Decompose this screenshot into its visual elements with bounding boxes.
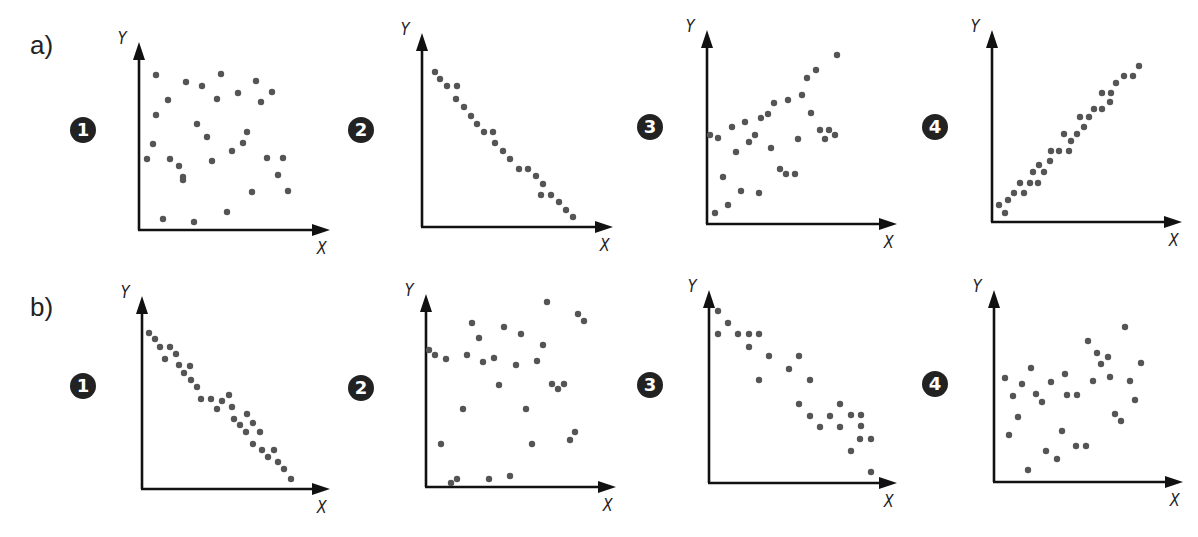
data-point	[1086, 114, 1092, 120]
data-point	[146, 330, 152, 336]
data-point	[796, 401, 802, 407]
data-point	[501, 324, 507, 330]
data-point	[231, 416, 237, 422]
data-point	[544, 299, 550, 305]
data-point	[525, 166, 531, 172]
data-point	[229, 148, 235, 154]
data-point	[817, 424, 823, 430]
scatter-plot-b3	[703, 290, 897, 489]
y-axis-arrow-icon	[420, 294, 432, 312]
data-point	[264, 155, 270, 161]
data-point	[837, 401, 843, 407]
data-point	[752, 132, 758, 138]
data-point	[756, 377, 762, 383]
data-point	[777, 166, 783, 172]
data-point	[1005, 197, 1011, 203]
data-point	[1059, 428, 1065, 434]
x-axis-arrow-icon	[879, 477, 897, 489]
data-point	[1083, 443, 1089, 449]
data-point	[834, 52, 840, 58]
data-point	[265, 454, 271, 460]
data-point	[1105, 354, 1111, 360]
data-point	[1021, 190, 1027, 196]
data-point	[725, 202, 731, 208]
data-point	[235, 90, 241, 96]
data-point	[837, 424, 843, 430]
y-axis-arrow-icon	[701, 30, 713, 48]
data-point	[253, 78, 259, 84]
data-point	[464, 352, 470, 358]
x-axis-arrow-icon	[1165, 476, 1183, 488]
data-point	[1074, 131, 1080, 137]
data-point	[1091, 106, 1097, 112]
y-axis-arrow-icon	[986, 30, 998, 48]
data-point	[469, 320, 475, 326]
data-point	[1090, 378, 1096, 384]
data-point	[275, 459, 281, 465]
data-point	[817, 127, 823, 133]
data-point	[715, 308, 721, 314]
data-point	[868, 436, 874, 442]
scatter-plot-b4	[988, 290, 1183, 488]
data-point	[176, 362, 182, 368]
scatter-plot-canvas	[0, 0, 1198, 537]
data-point	[1113, 80, 1119, 86]
data-point	[258, 99, 264, 105]
data-point	[160, 216, 166, 222]
y-axis-arrow-icon	[133, 42, 145, 60]
data-point	[438, 441, 444, 447]
data-point	[785, 97, 791, 103]
scatter-plot-b2	[420, 294, 616, 493]
data-point	[771, 100, 777, 106]
x-axis-arrow-icon	[312, 224, 330, 236]
data-point	[443, 356, 449, 362]
y-axis-arrow-icon	[988, 290, 1000, 308]
data-point	[1011, 190, 1017, 196]
data-point	[500, 148, 506, 154]
data-point	[1033, 391, 1039, 397]
data-point	[476, 335, 482, 341]
data-point	[1136, 63, 1142, 69]
data-point	[1039, 399, 1045, 405]
data-point	[733, 149, 739, 155]
data-point	[832, 132, 838, 138]
data-point	[1062, 371, 1068, 377]
data-point	[1048, 379, 1054, 385]
data-point	[540, 342, 546, 348]
x-axis-arrow-icon	[1164, 216, 1182, 228]
data-point	[1108, 90, 1114, 96]
data-point	[538, 192, 544, 198]
data-point	[715, 331, 721, 337]
data-point	[1066, 148, 1072, 154]
data-point	[496, 382, 502, 388]
data-point	[1054, 456, 1060, 462]
data-point	[556, 199, 562, 205]
data-point	[1043, 448, 1049, 454]
data-point	[707, 132, 713, 138]
scatter-plot-a2	[416, 33, 613, 233]
data-point	[226, 392, 232, 398]
data-point	[996, 202, 1002, 208]
data-point	[209, 158, 215, 164]
data-point	[492, 140, 498, 146]
data-point	[224, 209, 230, 215]
data-point	[1094, 350, 1100, 356]
data-point	[807, 413, 813, 419]
data-point	[1098, 361, 1104, 367]
data-point	[572, 429, 578, 435]
data-point	[523, 406, 529, 412]
data-point	[150, 141, 156, 147]
data-point	[758, 115, 764, 121]
data-point	[480, 359, 486, 365]
data-point	[768, 145, 774, 151]
data-point	[783, 171, 789, 177]
data-point	[712, 210, 718, 216]
data-point	[1107, 374, 1113, 380]
data-point	[194, 121, 200, 127]
data-point	[271, 447, 277, 453]
data-point	[288, 476, 294, 482]
y-axis-arrow-icon	[703, 290, 715, 308]
data-point	[756, 190, 762, 196]
data-point	[1015, 414, 1021, 420]
data-point	[468, 113, 474, 119]
